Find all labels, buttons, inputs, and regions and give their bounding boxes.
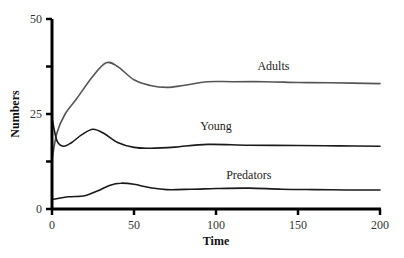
series-labels: AdultsYoungPredators xyxy=(200,59,289,182)
x-tick-label: 200 xyxy=(371,218,389,232)
series-label-young: Young xyxy=(200,119,231,133)
x-tick-label: 150 xyxy=(289,218,307,232)
x-tick-label: 100 xyxy=(207,218,225,232)
y-tick-label: 0 xyxy=(36,202,42,216)
y-tick-label: 25 xyxy=(30,107,42,121)
series-line-predators xyxy=(52,183,380,199)
y-axis-title: Numbers xyxy=(8,90,22,138)
x-tick-label: 50 xyxy=(128,218,140,232)
series-label-adults: Adults xyxy=(257,59,289,73)
y-tick-label: 50 xyxy=(30,12,42,26)
x-axis-title: Time xyxy=(203,234,230,248)
x-tick-label: 0 xyxy=(49,218,55,232)
series-label-predators: Predators xyxy=(226,168,272,182)
population-chart: 02550050100150200 AdultsYoungPredators T… xyxy=(0,0,404,258)
